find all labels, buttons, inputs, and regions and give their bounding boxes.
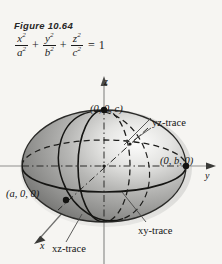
upper-axis-node [128,142,131,145]
figure-caption: Figure 10.64 [14,20,73,31]
z-axis-label: z [104,76,108,87]
term1-den-exponent: 2 [23,45,27,53]
equation-term-x: x2 a2 [15,33,28,58]
intercept-dot-x [63,197,69,203]
y-axis-label: y [205,170,209,181]
center-dot [102,164,105,167]
figure-container: Figure 10.64 x2 a2 + y2 b2 + z2 c2 = 1 z… [0,0,222,264]
equation-rhs: 1 [97,38,105,53]
point-label-x-intercept: (a, 0, 0) [6,188,39,199]
point-label-y-intercept: (0, b, 0) [160,155,193,166]
plus-sign-1: + [31,38,40,53]
point-label-z-intercept: (0, 0, c) [90,103,123,114]
term2-num-exponent: 2 [50,31,54,39]
xz-trace-label: xz-trace [52,243,86,254]
term3-den-exponent: 2 [77,45,81,53]
term2-den-exponent: 2 [50,45,54,53]
equals-sign: = [86,38,95,53]
yz-trace-label: yz-trace [152,117,186,128]
x-axis-label: x [40,240,44,251]
term1-num-exponent: 2 [22,31,26,39]
equation-term-z: z2 c2 [71,33,83,58]
y-axis-arrowhead [206,163,216,170]
xy-trace-label: xy-trace [138,225,172,236]
ellipsoid-equation: x2 a2 + y2 b2 + z2 c2 = 1 [14,33,105,58]
term3-num-exponent: 2 [77,31,81,39]
equation-term-y: y2 b2 [43,33,56,58]
plus-sign-2: + [59,38,68,53]
